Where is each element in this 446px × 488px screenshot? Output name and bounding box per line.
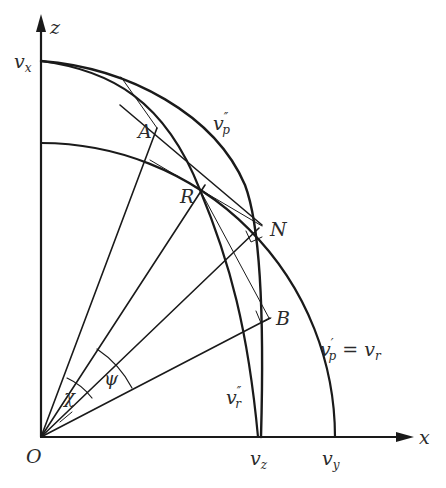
tangent-R-N	[150, 160, 262, 226]
x-axis-arrow-icon	[396, 432, 414, 442]
x-axis-label: x	[419, 428, 430, 447]
label-vr-double-prime: v″r	[226, 386, 241, 410]
z-axis-arrow-icon	[36, 14, 46, 32]
point-B-label: B	[276, 309, 290, 328]
point-A-label: A	[138, 122, 152, 141]
point-R-label: R	[180, 187, 194, 206]
label-vz: vz	[250, 449, 267, 471]
label-vx: vx	[14, 52, 32, 74]
ray-OB	[41, 318, 270, 437]
velocity-surfaces-diagram	[0, 0, 446, 488]
angle-psi-label: ψ	[104, 370, 118, 388]
origin-label: O	[26, 447, 42, 466]
label-vp-double-prime: v″p	[213, 112, 230, 136]
point-N-label: N	[270, 220, 287, 239]
z-axis-label: z	[50, 18, 60, 37]
ray-OA	[41, 128, 157, 437]
label-vy: vy	[322, 449, 340, 471]
label-vp-prime-equals-vr: v′p = vr	[320, 338, 381, 362]
angle-chi-label: χ	[64, 388, 75, 406]
